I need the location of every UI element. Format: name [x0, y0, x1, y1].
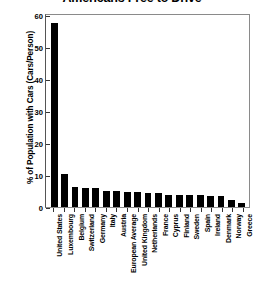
bar [228, 200, 235, 207]
x-tick-mark [148, 208, 149, 212]
bar-column [132, 15, 142, 207]
bar [82, 188, 89, 207]
y-tick-label: 40 [35, 76, 46, 85]
bar-column [122, 15, 132, 207]
bar-column [91, 15, 101, 207]
y-axis-label: % of Population with Cars (Cars/Person) [26, 18, 35, 198]
y-tick-20: 20 [35, 135, 46, 153]
x-tick-mark [201, 208, 202, 212]
x-tick-mark [232, 208, 233, 212]
x-tick-mark [85, 208, 86, 212]
x-tick-mark [138, 208, 139, 212]
bar [134, 192, 141, 207]
x-tick-cell: Luxembourg [59, 208, 70, 289]
bar [145, 193, 152, 207]
bar [92, 188, 99, 207]
bar [197, 195, 204, 207]
y-tick-label: 60 [35, 12, 46, 21]
x-tick-cell: Italy [101, 208, 112, 289]
x-tick-cell: Denmark [217, 208, 228, 289]
bar [103, 191, 110, 207]
x-tick-mark [95, 208, 96, 212]
y-tick-mark [46, 16, 50, 17]
x-tick-cell: Finland [174, 208, 185, 289]
x-tick-cell: European Average [122, 208, 133, 289]
x-tick-cell: Netherlands [143, 208, 154, 289]
bar [186, 195, 193, 207]
bar [72, 187, 79, 207]
x-tick-mark [53, 208, 54, 212]
bar [124, 192, 131, 207]
x-tick-cell: Belgium [69, 208, 80, 289]
y-tick-mark [46, 80, 50, 81]
bar-column [101, 15, 111, 207]
y-tick-mark [46, 144, 50, 145]
x-tick-mark [127, 208, 128, 212]
bar-column [59, 15, 69, 207]
bar-column [80, 15, 90, 207]
bar-column [49, 15, 59, 207]
bar [113, 191, 120, 207]
bar-column [174, 15, 184, 207]
x-tick-cell: Austria [111, 208, 122, 289]
plot-area: 6050403020100 [45, 14, 250, 208]
bar [51, 23, 58, 207]
bar [155, 193, 162, 207]
bar-column [164, 15, 174, 207]
x-tick-mark [116, 208, 117, 212]
x-tick-cell: France [153, 208, 164, 289]
x-tick-cell: United States [48, 208, 59, 289]
bar [165, 195, 172, 207]
x-tick-mark [243, 208, 244, 212]
bar-column [237, 15, 247, 207]
bar-column [205, 15, 215, 207]
bar [207, 196, 214, 207]
bar-column [153, 15, 163, 207]
x-tick-cell: Ireland [206, 208, 217, 289]
x-tick-mark [169, 208, 170, 212]
bar [61, 174, 68, 207]
y-tick-30: 30 [35, 103, 46, 121]
y-tick-50: 50 [35, 39, 46, 57]
x-tick-mark [190, 208, 191, 212]
bar [176, 195, 183, 207]
x-tick-mark [211, 208, 212, 212]
bar-column [226, 15, 236, 207]
x-tick-cell: United Kingdom [132, 208, 143, 289]
x-tick-mark [222, 208, 223, 212]
x-tick-mark [106, 208, 107, 212]
x-tick-mark [64, 208, 65, 212]
y-tick-label: 30 [35, 108, 46, 117]
bar-column [216, 15, 226, 207]
chart-root: Americans Free to Drive % of Population … [0, 0, 264, 289]
bar-column [112, 15, 122, 207]
y-tick-label: 50 [35, 44, 46, 53]
y-tick-40: 40 [35, 71, 46, 89]
y-tick-mark [46, 48, 50, 49]
x-axis-categories: United StatesLuxembourgBelgiumSwitzerlan… [45, 208, 250, 289]
x-tick-mark [180, 208, 181, 212]
x-tick-cell: Spain [195, 208, 206, 289]
y-tick-label: 20 [35, 140, 46, 149]
x-tick-mark [74, 208, 75, 212]
bar [218, 196, 225, 207]
bar [238, 203, 245, 207]
x-tick-cell: Switzerland [80, 208, 91, 289]
y-tick-mark [46, 176, 50, 177]
bar-column [195, 15, 205, 207]
x-tick-cell: Cyprus [164, 208, 175, 289]
x-tick-cell: Norway [227, 208, 238, 289]
x-tick-cell: Germany [90, 208, 101, 289]
x-tick-cell: Sweden [185, 208, 196, 289]
x-tick-label: Greece [246, 214, 253, 237]
chart-title: Americans Free to Drive [0, 0, 264, 5]
bar-column [143, 15, 153, 207]
bar-series [46, 15, 249, 207]
bar-column [70, 15, 80, 207]
y-tick-mark [46, 112, 50, 113]
y-tick-label: 10 [35, 172, 46, 181]
x-tick-cell: Greece [238, 208, 249, 289]
y-tick-10: 10 [35, 167, 46, 185]
bar-column [184, 15, 194, 207]
x-tick-mark [159, 208, 160, 212]
